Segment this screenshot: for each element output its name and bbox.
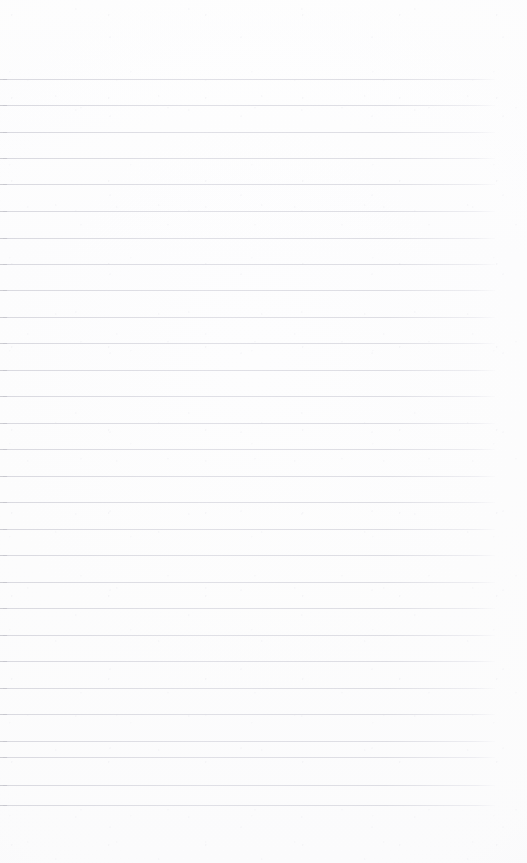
ruled-line (3, 290, 495, 291)
ruled-line (3, 476, 495, 477)
ruled-lines-layer (0, 0, 527, 863)
ruled-line (3, 502, 495, 503)
ruled-line (3, 79, 495, 80)
ruled-line (3, 158, 495, 159)
ruled-line (3, 317, 495, 318)
ruled-line (3, 132, 495, 133)
ruled-line (3, 608, 495, 609)
ruled-line (3, 184, 495, 185)
ruled-line (3, 741, 495, 742)
ruled-line (3, 555, 495, 556)
ruled-line (3, 635, 495, 636)
ruled-line (3, 396, 495, 397)
ruled-line (3, 805, 495, 806)
ruled-line (3, 105, 495, 106)
ruled-line (3, 423, 495, 424)
ruled-line (3, 757, 495, 758)
ruled-line (3, 238, 495, 239)
ruled-line (3, 449, 495, 450)
ruled-line (3, 714, 495, 715)
ruled-line (3, 370, 495, 371)
ruled-line (3, 661, 495, 662)
ruled-line (3, 529, 495, 530)
ruled-line (3, 211, 495, 212)
notebook-page (0, 0, 527, 863)
ruled-line (3, 582, 495, 583)
ruled-line (3, 343, 495, 344)
ruled-line (3, 785, 495, 786)
ruled-line (3, 264, 495, 265)
ruled-line (3, 688, 495, 689)
